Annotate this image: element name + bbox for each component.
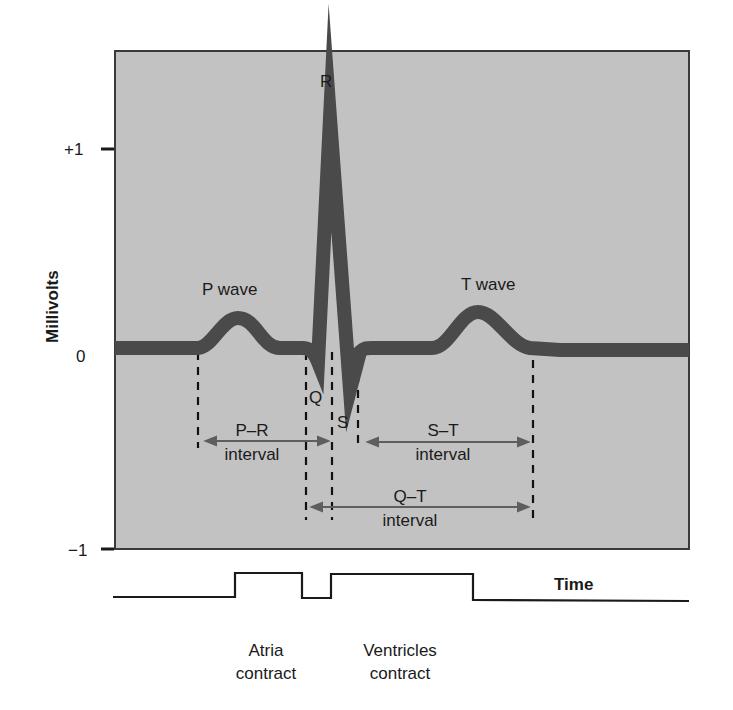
- y-axis-title: Millivolts: [43, 270, 62, 343]
- plot-area: [115, 51, 689, 549]
- ecg-diagram: +1 0 −1 Millivolts R P wave T wave Q S P…: [0, 0, 733, 710]
- pr-interval-label-2: interval: [225, 445, 280, 464]
- s-label: S: [337, 413, 348, 432]
- tick-label-plus1: +1: [64, 140, 83, 159]
- tick-label-zero: 0: [76, 347, 85, 366]
- tick-label-minus1: −1: [68, 541, 87, 560]
- st-interval-label-2: interval: [416, 445, 471, 464]
- r-label: R: [320, 72, 332, 91]
- t-wave-label: T wave: [461, 275, 516, 294]
- q-label: Q: [309, 388, 322, 407]
- st-interval-label-1: S–T: [427, 421, 458, 440]
- p-wave-label: P wave: [202, 280, 257, 299]
- qt-interval-label-2: interval: [383, 511, 438, 530]
- ventricles-label-2: contract: [370, 664, 431, 683]
- atria-label-1: Atria: [249, 641, 285, 660]
- time-label: Time: [554, 575, 593, 594]
- qt-interval-label-1: Q–T: [393, 487, 426, 506]
- contraction-timing-bar: [113, 573, 689, 601]
- ventricles-label-1: Ventricles: [363, 641, 437, 660]
- atria-label-2: contract: [236, 664, 297, 683]
- pr-interval-label-1: P–R: [235, 421, 268, 440]
